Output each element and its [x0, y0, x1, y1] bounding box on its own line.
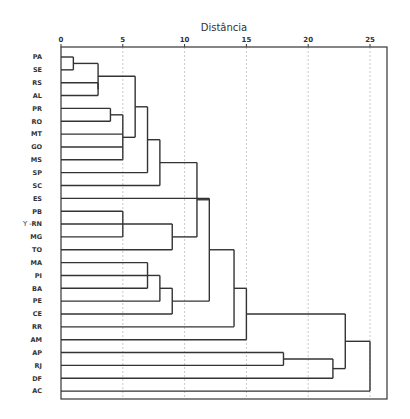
leaf-label-pr: PR: [32, 105, 42, 113]
leaf-label-pa: PA: [33, 53, 42, 61]
dendrogram-links: [61, 57, 370, 391]
x-tick-label-25: 25: [365, 36, 375, 44]
x-tick-label-0: 0: [59, 36, 64, 44]
leaf-label-sc: SC: [33, 182, 43, 190]
leaf-label-df: DF: [32, 375, 42, 383]
leaf-label-go: GO: [31, 143, 42, 151]
leaf-label-ro: RO: [31, 118, 42, 126]
chart-title: Distância: [201, 22, 247, 33]
x-tick-label-5: 5: [120, 36, 125, 44]
leaf-label-ap: AP: [32, 349, 42, 357]
leaf-label-rn: RN: [32, 220, 42, 228]
x-tick-label-10: 10: [180, 36, 190, 44]
grid-lines: [123, 47, 370, 399]
x-tick-label-15: 15: [242, 36, 252, 44]
leaf-label-to: TO: [32, 246, 42, 254]
leaf-label-es: ES: [33, 195, 42, 203]
leaf-labels: PASERSALPRROMTGOMSSPSCESPBRNMGTOMAPIBAPE…: [30, 53, 42, 395]
leaf-label-mt: MT: [31, 130, 42, 138]
leaf-label-rr: RR: [32, 323, 42, 331]
leaf-label-se: SE: [33, 66, 42, 74]
leaf-label-ce: CE: [33, 310, 42, 318]
leaf-label-pi: PI: [35, 272, 42, 280]
leaf-label-ac: AC: [32, 387, 42, 395]
leaf-label-ms: MS: [31, 156, 42, 164]
leaf-label-pb: PB: [32, 208, 42, 216]
leaf-label-am: AM: [31, 336, 43, 344]
x-axis-ticks: 0510152025: [59, 36, 375, 47]
leaf-label-sp: SP: [33, 169, 43, 177]
leaf-label-ba: BA: [32, 285, 42, 293]
leaf-label-rs: RS: [32, 79, 42, 87]
y-axis-label: Y: [22, 220, 28, 228]
leaf-label-mg: MG: [30, 233, 42, 241]
dendrogram-chart: Distância 0510152025 PASERSALPRROMTGOMSS…: [0, 0, 410, 419]
leaf-label-rj: RJ: [35, 362, 42, 370]
leaf-label-ma: MA: [31, 259, 43, 267]
plot-frame: [61, 47, 387, 399]
leaf-label-pe: PE: [33, 297, 42, 305]
leaf-label-al: AL: [33, 92, 42, 100]
x-tick-label-20: 20: [303, 36, 313, 44]
